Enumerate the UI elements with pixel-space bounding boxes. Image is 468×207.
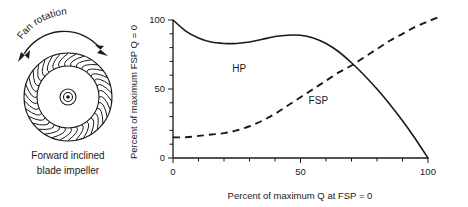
y-tick-label-100: 100 bbox=[149, 14, 165, 25]
hub-center-dot-icon bbox=[66, 95, 70, 99]
rotation-arrow-left-icon bbox=[18, 50, 30, 62]
impeller-blade bbox=[38, 64, 42, 80]
y-axis-title: Percent of maximum FSP Q = 0 bbox=[128, 25, 139, 159]
y-tick-label-50: 50 bbox=[154, 83, 165, 94]
fan-rotation-label: Fan rotation bbox=[15, 6, 68, 42]
figure-container: Fan rotation Forward inclined blade impe… bbox=[0, 0, 468, 207]
impeller-blade bbox=[33, 122, 50, 125]
y-tick-label-0: 0 bbox=[160, 152, 165, 163]
impeller-blade bbox=[94, 113, 98, 129]
diagram-caption-line-2: blade impeller bbox=[37, 165, 100, 176]
y-axis-tick-labels: 050100 bbox=[149, 14, 165, 163]
hp-series-label: HP bbox=[232, 63, 246, 74]
impeller-blade bbox=[91, 118, 94, 135]
impeller-wheel bbox=[24, 53, 112, 141]
x-axis-ticks bbox=[173, 158, 428, 163]
y-axis-ticks bbox=[168, 20, 173, 158]
impeller-blade bbox=[82, 65, 98, 70]
x-axis-title: Percent of maximum Q at FSP = 0 bbox=[228, 190, 373, 201]
figure-svg: Fan rotation Forward inclined blade impe… bbox=[0, 0, 468, 207]
impeller-blade bbox=[38, 125, 54, 130]
rotation-arrow-right-icon bbox=[95, 45, 108, 56]
fsp-series-label: FSP bbox=[309, 95, 329, 106]
impeller-diagram: Fan rotation Forward inclined blade impe… bbox=[15, 6, 112, 176]
diagram-caption-line-1: Forward inclined bbox=[31, 150, 104, 161]
fan-rotation-label-text: Fan rotation bbox=[15, 6, 68, 42]
x-tick-label-50: 50 bbox=[295, 166, 306, 177]
chart: Percent of maximum FSP Q = 0 Percent of … bbox=[128, 14, 438, 201]
x-axis-tick-labels: 050100 bbox=[170, 166, 436, 177]
x-tick-label-0: 0 bbox=[170, 166, 175, 177]
rotation-arc bbox=[24, 31, 100, 54]
x-tick-label-100: 100 bbox=[420, 166, 436, 177]
impeller-blade bbox=[42, 59, 45, 76]
impeller-blade bbox=[87, 69, 104, 72]
